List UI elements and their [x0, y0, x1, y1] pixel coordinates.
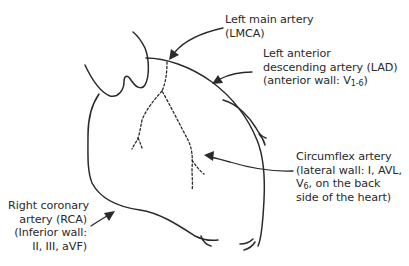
- rca-leader-line: [91, 216, 107, 226]
- lad-arrowhead: [212, 75, 223, 84]
- lad-label-line-3: (anterior wall: V1-6): [263, 74, 398, 88]
- rca-label-line-2: artery (RCA): [8, 213, 87, 227]
- circumflex-label-line-3: V6, on the back: [296, 177, 402, 191]
- diagonal-branch-dashed: [132, 91, 162, 149]
- lad-label-line-1: Left anterior: [263, 47, 398, 61]
- lad-label: Left anterior descending artery (LAD) (a…: [263, 47, 398, 88]
- lmca-leader-line: [175, 28, 223, 52]
- lad-leader-line: [220, 72, 252, 79]
- lad-label-line-3-suffix: ): [364, 74, 368, 87]
- circumflex-label: Circumflex artery (lateral wall: I, AVL,…: [296, 150, 402, 204]
- circumflex-label-line-4: side of the heart): [296, 191, 402, 205]
- lad-subbranch-dashed: [192, 160, 204, 174]
- diagonal-subbranch-dashed: [138, 138, 142, 148]
- apex-curl-left: [201, 236, 211, 246]
- apex-curl-right-1: [240, 239, 253, 244]
- rca-label-line-1: Right coronary: [8, 199, 87, 213]
- marginal-vessel-outline: [223, 100, 266, 138]
- circumflex-arrowhead: [204, 151, 214, 161]
- lad-artery-dashed: [162, 62, 192, 190]
- circumflex-label-line-2: (lateral wall: I, AVL,: [296, 164, 402, 178]
- rca-arrowhead: [104, 211, 115, 221]
- lmca-arrowhead: [169, 49, 179, 60]
- rca-label: Right coronary artery (RCA) (Inferior wa…: [8, 199, 87, 253]
- circumflex-label-line-1: Circumflex artery: [296, 150, 402, 164]
- lmca-label-line-1: Left main artery: [225, 13, 313, 27]
- lad-lead-subscript: 1-6: [351, 79, 364, 88]
- rca-label-line-3: (Inferior wall:: [8, 226, 87, 240]
- lad-label-line-2: descending artery (LAD): [263, 61, 398, 75]
- great-vessel-outline: [85, 32, 148, 96]
- circumflex-label-line-3-text: V: [296, 177, 304, 190]
- lmca-label: Left main artery (LMCA): [225, 13, 313, 40]
- lmca-label-line-2: (LMCA): [225, 27, 313, 41]
- rca-label-line-4: II, III, aVF): [8, 240, 87, 254]
- lad-label-line-3-text: (anterior wall: V: [263, 74, 351, 87]
- circumflex-label-line-3-suffix: , on the back: [309, 177, 381, 190]
- circumflex-leader-line: [210, 157, 293, 171]
